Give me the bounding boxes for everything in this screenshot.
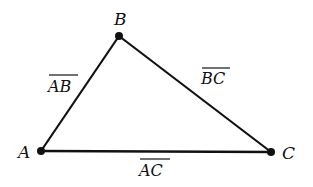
vertex-c-label: C <box>282 143 295 163</box>
segment-ab-label: AB <box>46 77 72 96</box>
segment-bc-label: BC <box>200 69 225 88</box>
vertex-c-point <box>267 148 275 156</box>
vertex-b-point <box>115 32 123 40</box>
segment-bc <box>119 36 271 152</box>
triangle-diagram: A B C AB BC AC <box>0 0 313 187</box>
vertex-b-label: B <box>113 9 127 29</box>
segment-ac <box>41 151 271 152</box>
segment-ac-label: AC <box>137 161 163 180</box>
vertex-a-point <box>37 147 45 155</box>
vertex-a-label: A <box>16 142 30 162</box>
